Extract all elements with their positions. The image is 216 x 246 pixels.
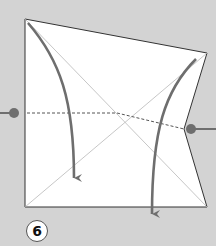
step-number-badge: 6 (26, 220, 48, 242)
origami-diagram: 6 (0, 0, 216, 246)
left-pointer-dot-icon (9, 108, 19, 118)
diagram-canvas (0, 0, 216, 246)
right-pointer-dot-icon (186, 124, 196, 134)
